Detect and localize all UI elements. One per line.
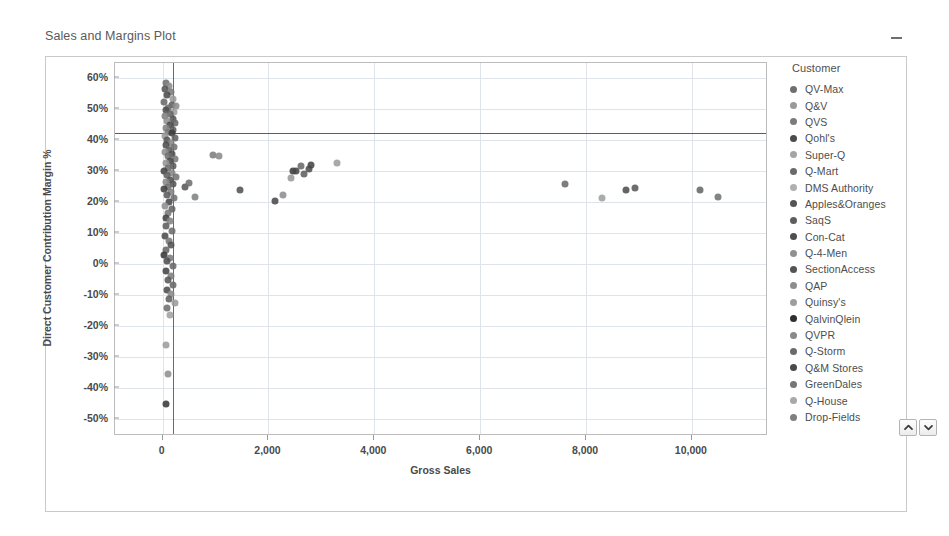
legend-swatch-dot-icon — [790, 86, 797, 93]
scatter-point[interactable] — [334, 160, 341, 167]
gridline-horizontal — [115, 233, 766, 234]
scatter-point[interactable] — [622, 187, 629, 194]
x-axis-ticks: 02,0004,0006,0008,00010,000 — [114, 435, 767, 457]
legend-item[interactable]: Super-Q — [790, 147, 930, 163]
gridline-vertical — [374, 63, 375, 434]
scatter-point[interactable] — [192, 194, 199, 201]
legend-item[interactable]: Quinsy's — [790, 294, 930, 310]
y-axis-title: Direct Customer Contribution Margin % — [41, 149, 53, 346]
y-axis-tick-label: 30% — [87, 164, 108, 176]
legend-scroll-down-button[interactable] — [919, 419, 937, 436]
legend-swatch-dot-icon — [790, 266, 797, 273]
legend-item[interactable]: QalvinQlein — [790, 310, 930, 326]
x-axis-tick-label: 8,000 — [572, 444, 598, 456]
scatter-point[interactable] — [287, 175, 294, 182]
x-axis-tick-mark — [479, 435, 480, 440]
y-axis-tick-mark — [114, 324, 119, 325]
x-axis-tick-label: 2,000 — [254, 444, 280, 456]
gridline-horizontal — [115, 357, 766, 358]
plot-area[interactable] — [114, 62, 767, 435]
legend-items: QV-MaxQ&VQVSQohl'sSuper-QQ-MartDMS Autho… — [790, 81, 930, 425]
legend-item-label: Apples&Oranges — [805, 198, 886, 210]
legend-item-label: SaqS — [805, 214, 831, 226]
legend-item[interactable]: QV-Max — [790, 81, 930, 97]
legend-item[interactable]: SaqS — [790, 212, 930, 228]
legend-item[interactable]: Q-Mart — [790, 163, 930, 179]
scatter-point[interactable] — [631, 185, 638, 192]
scatter-point[interactable] — [280, 192, 287, 199]
y-axis-tick-label: 0% — [93, 257, 108, 269]
scatter-point[interactable] — [272, 197, 279, 204]
scatter-point[interactable] — [169, 227, 176, 234]
legend-item[interactable]: DMS Authority — [790, 179, 930, 195]
legend-item-label: Q-Mart — [805, 165, 838, 177]
scatter-point[interactable] — [561, 181, 568, 188]
legend-scroll-up-button[interactable] — [899, 419, 917, 436]
legend-item[interactable]: GreenDales — [790, 376, 930, 392]
scatter-point[interactable] — [166, 311, 173, 318]
legend-swatch-dot-icon — [790, 102, 797, 109]
y-axis-tick-label: 20% — [87, 195, 108, 207]
legend-swatch-dot-icon — [790, 414, 797, 421]
y-axis-tick-label: 40% — [87, 133, 108, 145]
scatter-point[interactable] — [169, 262, 176, 269]
legend-swatch-dot-icon — [790, 135, 797, 142]
x-axis-title: Gross Sales — [114, 464, 767, 476]
legend-swatch-dot-icon — [790, 299, 797, 306]
scatter-point[interactable] — [162, 400, 169, 407]
legend-item[interactable]: QVS — [790, 114, 930, 130]
legend-item[interactable]: Q-House — [790, 392, 930, 408]
x-axis-tick-label: 10,000 — [675, 444, 707, 456]
x-axis-tick-mark — [267, 435, 268, 440]
gridline-horizontal — [115, 295, 766, 296]
gridline-vertical — [586, 63, 587, 434]
scatter-point[interactable] — [598, 195, 605, 202]
scatter-point[interactable] — [715, 193, 722, 200]
scatter-point[interactable] — [164, 304, 171, 311]
legend-item-label: QVS — [805, 116, 827, 128]
gridline-horizontal — [115, 78, 766, 79]
scatter-point[interactable] — [163, 341, 170, 348]
scatter-point[interactable] — [215, 153, 222, 160]
legend-item[interactable]: Qohl's — [790, 130, 930, 146]
y-axis-tick-label: -30% — [83, 350, 108, 362]
y-axis-tick-label: 10% — [87, 226, 108, 238]
scatter-point[interactable] — [297, 162, 304, 169]
scatter-point[interactable] — [307, 162, 314, 169]
legend-swatch-dot-icon — [790, 200, 797, 207]
scatter-point[interactable] — [696, 187, 703, 194]
legend-item[interactable]: QAP — [790, 278, 930, 294]
y-axis-tick-mark — [114, 293, 119, 294]
x-axis-tick-mark — [162, 435, 163, 440]
legend-item[interactable]: Apples&Oranges — [790, 196, 930, 212]
y-axis-tick-label: 50% — [87, 102, 108, 114]
y-axis-tick-label: 60% — [87, 71, 108, 83]
chevron-down-icon — [924, 424, 933, 431]
legend-item[interactable]: Con-Cat — [790, 229, 930, 245]
scatter-point[interactable] — [186, 179, 193, 186]
legend-swatch-dot-icon — [790, 315, 797, 322]
scatter-point[interactable] — [170, 281, 177, 288]
legend-item[interactable]: Q-4-Men — [790, 245, 930, 261]
legend-item-label: SectionAccess — [805, 263, 875, 275]
gridline-horizontal — [115, 419, 766, 420]
legend-swatch-dot-icon — [790, 118, 797, 125]
legend: Customer QV-MaxQ&VQVSQohl'sSuper-QQ-Mart… — [790, 62, 930, 425]
legend-item[interactable]: QVPR — [790, 327, 930, 343]
legend-item[interactable]: SectionAccess — [790, 261, 930, 277]
minimize-icon[interactable] — [890, 34, 903, 41]
scatter-point[interactable] — [236, 187, 243, 194]
legend-item-label: Quinsy's — [805, 296, 846, 308]
y-axis-tick-mark — [114, 170, 119, 171]
legend-item[interactable]: Q&V — [790, 97, 930, 113]
legend-item-label: Q&M Stores — [805, 362, 863, 374]
legend-item[interactable]: Q&M Stores — [790, 360, 930, 376]
legend-swatch-dot-icon — [790, 381, 797, 388]
scatter-point[interactable] — [165, 370, 172, 377]
scatter-point[interactable] — [171, 299, 178, 306]
x-axis-tick-label: 6,000 — [466, 444, 492, 456]
legend-swatch-dot-icon — [790, 151, 797, 158]
legend-item[interactable]: Q-Storm — [790, 343, 930, 359]
gridline-horizontal — [115, 140, 766, 141]
legend-swatch-dot-icon — [790, 348, 797, 355]
